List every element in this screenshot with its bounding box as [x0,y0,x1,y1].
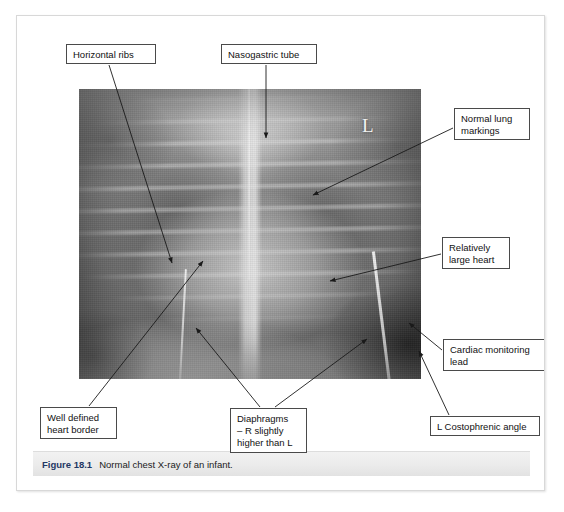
callout-well-defined-heart-border[interactable]: Well defined heart border [40,407,117,439]
figure-caption: Figure 18.1 Normal chest X-ray of an inf… [33,451,530,476]
xray-left-side-marker: L [362,116,374,135]
figure-page: L Horizontal ribsNasogastric tubeNormal … [16,15,545,491]
callout-diaphragms[interactable]: Diaphragms – R slightly higher than L [230,408,307,453]
figure-caption-text: Normal chest X-ray of an infant. [99,459,233,470]
callout-horizontal-ribs[interactable]: Horizontal ribs [66,44,156,64]
callout-l-costophrenic-angle[interactable]: L Costophrenic angle [430,416,540,436]
chest-xray-image: L [79,89,421,379]
figure-caption-number: Figure 18.1 [42,459,92,470]
callout-cardiac-monitoring-lead[interactable]: Cardiac monitoring lead [443,339,545,371]
callout-nasogastric-tube[interactable]: Nasogastric tube [221,44,317,64]
callout-normal-lung-markings[interactable]: Normal lung markings [454,108,530,140]
callout-relatively-large-heart[interactable]: Relatively large heart [442,237,510,269]
